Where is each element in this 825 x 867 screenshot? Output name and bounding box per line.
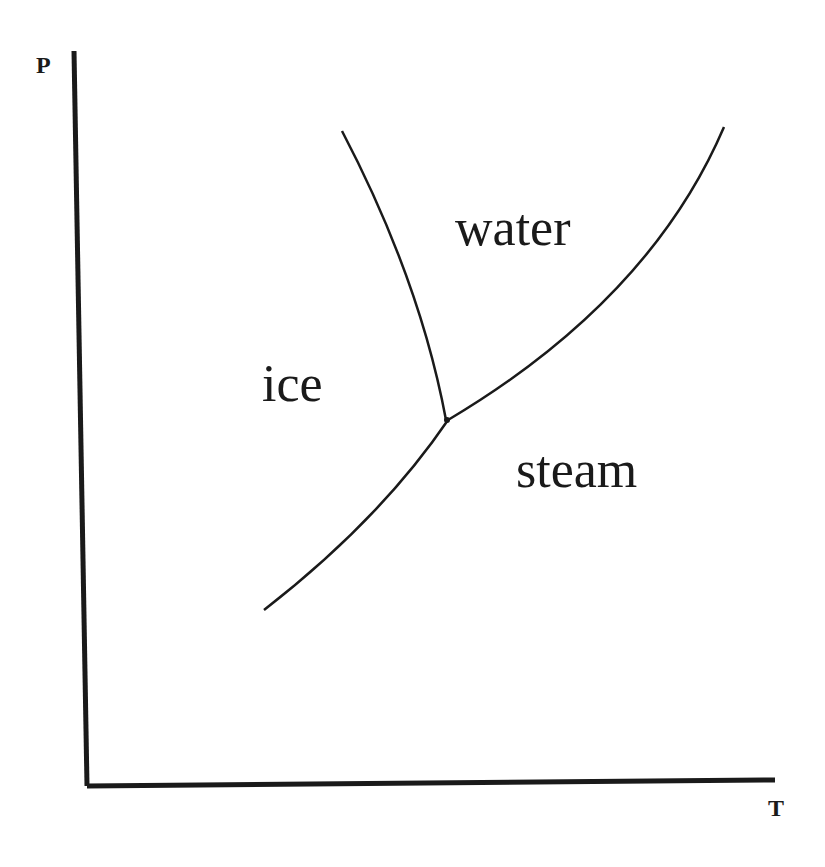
region-label-water: water bbox=[455, 202, 570, 254]
sublimation-curve bbox=[264, 420, 448, 610]
region-label-ice: ice bbox=[262, 358, 323, 410]
x-axis-label: T bbox=[768, 795, 784, 822]
phase-diagram-canvas bbox=[0, 0, 825, 867]
y-axis-label: P bbox=[36, 52, 51, 79]
triple-point bbox=[444, 417, 450, 423]
phase-diagram: P T water ice steam bbox=[0, 0, 825, 867]
x-axis bbox=[87, 780, 775, 786]
y-axis bbox=[74, 51, 87, 786]
melting-curve bbox=[342, 131, 446, 420]
vaporization-curve bbox=[448, 127, 724, 420]
region-label-steam: steam bbox=[516, 444, 637, 496]
